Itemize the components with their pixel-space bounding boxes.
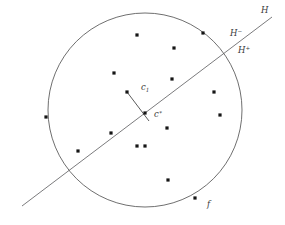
- data-point: [143, 144, 146, 147]
- data-points-layer: [44, 31, 221, 199]
- hyperplane-line-layer: [22, 17, 272, 206]
- data-point: [125, 90, 128, 93]
- data-point: [193, 196, 196, 199]
- label-Hminus: H−: [229, 28, 242, 38]
- boundary-circle-layer: [48, 13, 242, 207]
- label-Hplus: H+: [237, 45, 250, 55]
- data-point: [112, 71, 115, 74]
- segment-c1-to-cstar: [127, 92, 149, 121]
- figure-canvas: HH−H+c1c∗f: [0, 0, 285, 225]
- hyperplane-line: [22, 17, 272, 206]
- label-c1: c1: [141, 82, 149, 93]
- data-point: [166, 178, 169, 181]
- data-point: [135, 33, 138, 36]
- label-cstar: c∗: [154, 109, 163, 119]
- label-f: f: [206, 199, 212, 209]
- data-point: [109, 131, 112, 134]
- data-point: [212, 90, 215, 93]
- data-point: [143, 111, 146, 114]
- math-labels-layer: HH−H+c1c∗f: [141, 5, 269, 209]
- data-point: [76, 149, 79, 152]
- data-point: [165, 126, 168, 129]
- data-point: [44, 115, 47, 118]
- data-point: [170, 77, 173, 80]
- label-H: H: [260, 5, 269, 15]
- center-segment-layer: [127, 92, 149, 121]
- boundary-circle: [48, 13, 242, 207]
- data-point: [218, 113, 221, 116]
- data-point: [201, 31, 204, 34]
- data-point: [172, 46, 175, 49]
- data-point: [135, 144, 138, 147]
- diagram-svg: HH−H+c1c∗f: [0, 0, 285, 225]
